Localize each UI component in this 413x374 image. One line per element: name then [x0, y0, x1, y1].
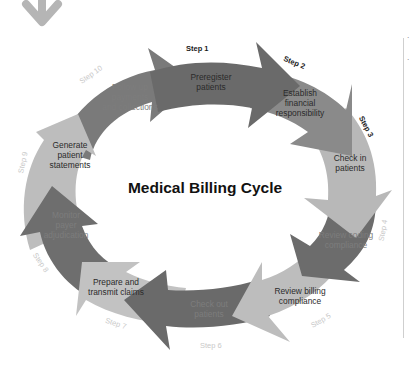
side-panel-mark: ·: [407, 56, 409, 63]
step-number-6: Step 6: [200, 341, 222, 350]
medical-billing-cycle-diagram: Preregister patients Establish financial…: [0, 0, 413, 374]
label-step-4: Review coding compliance: [319, 230, 373, 250]
label-step-9: Generate patient statements: [50, 140, 91, 170]
label-step-6: Check out patients: [190, 299, 228, 319]
side-panel-divider: [403, 38, 404, 338]
label-step-8: Monitor payer adjudication: [44, 210, 89, 240]
step-number-1: Step 1: [186, 44, 209, 53]
label-step-7: Prepare and transmit claims: [88, 277, 144, 297]
diagram-title: Medical Billing Cycle: [128, 179, 282, 197]
label-step-10: Follow up payments and collections: [102, 82, 157, 112]
side-panel-mark: ·: [407, 34, 409, 41]
label-step-3: Check in patients: [334, 153, 367, 173]
label-step-2: Establish financial responsibility: [276, 88, 324, 118]
label-step-5: Review billing compliance: [274, 286, 325, 306]
label-step-1: Preregister patients: [191, 72, 232, 92]
